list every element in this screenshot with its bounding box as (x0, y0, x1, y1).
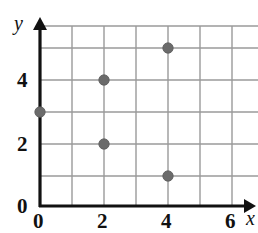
x-axis-label: x (246, 208, 255, 228)
data-point[interactable] (163, 43, 173, 53)
x-tick-label-4: 4 (161, 211, 172, 232)
y-tick-label-4: 4 (17, 70, 28, 91)
data-point[interactable] (35, 107, 45, 117)
x-tick-label-6: 6 (225, 211, 236, 232)
x-tick-label-0: 0 (33, 211, 44, 232)
x-tick-label-2: 2 (97, 211, 108, 232)
y-tick-label-0: 0 (17, 196, 28, 217)
y-axis-arrow-icon (33, 17, 47, 30)
plot-canvas (0, 0, 258, 233)
scatter-plot: 0 2 4 0 2 4 6 y x (0, 0, 258, 233)
data-point[interactable] (99, 75, 109, 85)
grid-vertical-lines (40, 26, 232, 206)
data-point[interactable] (163, 171, 173, 181)
y-axis-label: y (14, 13, 23, 33)
data-point[interactable] (99, 139, 109, 149)
y-tick-label-2: 2 (17, 134, 28, 155)
